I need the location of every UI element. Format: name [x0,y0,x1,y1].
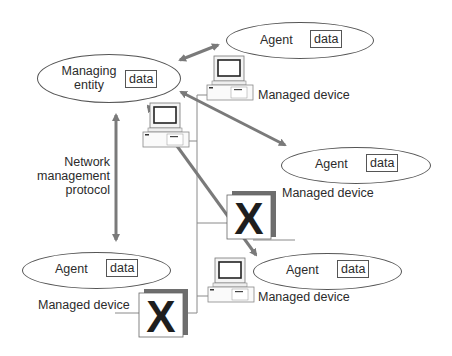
x-device-icon: X [227,191,276,243]
agent-node [281,147,431,184]
managing-entity-label-line2: entity [59,78,119,92]
svg-text:X: X [234,194,263,243]
protocol-label-line2: management [30,169,110,183]
agent-label: Agent [315,157,348,171]
agent-data-box: data [366,154,398,172]
protocol-label: Network management protocol [30,155,110,197]
managed-device-label: Managed device [258,290,350,304]
managed-device-label: Managed device [38,298,130,312]
managing-entity-label: Managing entity [59,64,119,92]
computer-icon [208,258,254,302]
computer-icon [143,103,189,147]
svg-text:X: X [146,292,175,341]
agent-node [22,252,171,289]
agent-data-box: data [337,260,369,278]
managing-entity-label-line1: Managing [59,64,119,78]
agent-label: Agent [260,33,293,47]
agent-data-box: data [310,30,342,48]
managing-entity-data-box: data [125,70,157,88]
protocol-label-line3: protocol [30,183,110,197]
network-management-diagram: X X Managing entity data Network managem… [0,0,452,356]
agent-label: Agent [286,263,319,277]
protocol-label-line1: Network [30,155,110,169]
agent-data-box: data [106,259,138,277]
agent-label: Agent [55,262,88,276]
computer-icon [207,56,253,100]
agent-node [253,253,402,290]
managed-device-label: Managed device [258,88,350,102]
x-device-icon: X [139,289,188,341]
managed-device-label: Managed device [282,186,374,200]
agent-node [226,22,374,59]
